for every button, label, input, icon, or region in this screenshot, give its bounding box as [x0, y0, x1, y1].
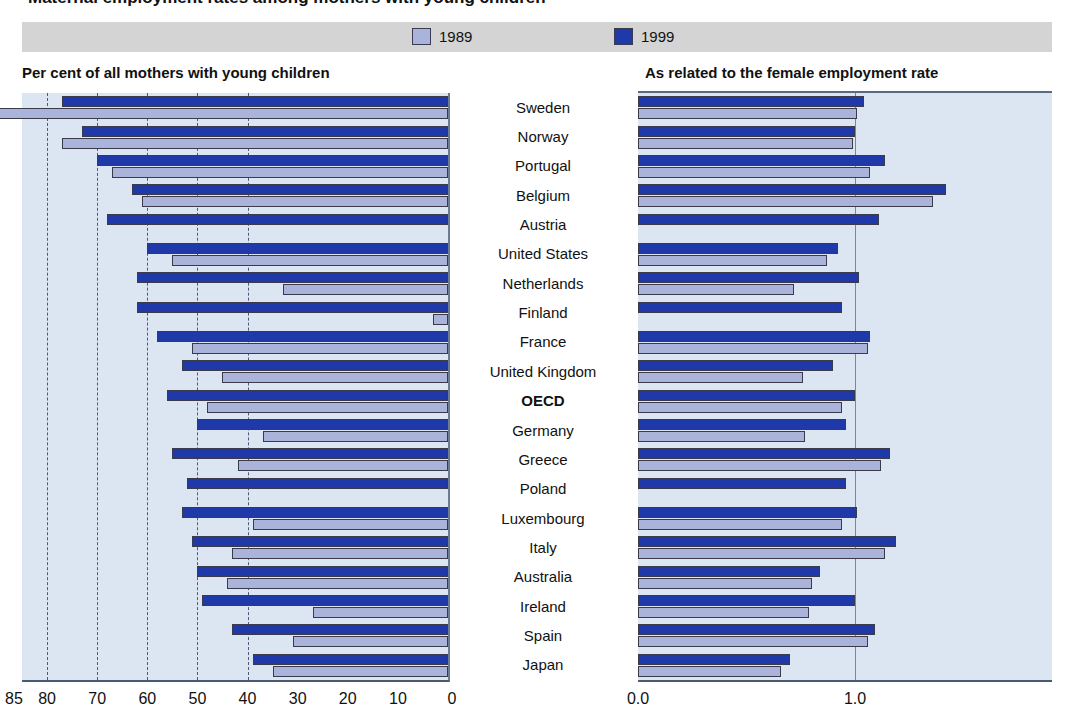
- bar-right-netherlands-1989: [638, 284, 794, 295]
- bar-right-japan-1999: [638, 654, 790, 665]
- bar-left-belgium-1999: [132, 184, 448, 195]
- country-label-belgium: Belgium: [452, 187, 634, 204]
- country-label-portugal: Portugal: [452, 157, 634, 174]
- country-label-united-kingdom: United Kingdom: [452, 363, 634, 380]
- bar-right-belgium-1999: [638, 184, 946, 195]
- bar-left-ireland-1999: [202, 595, 448, 606]
- bar-right-ireland-1989: [638, 607, 809, 618]
- legend-swatch-1989: [412, 28, 431, 45]
- country-label-ireland: Ireland: [452, 598, 634, 615]
- tick-left-20: 20: [339, 690, 357, 708]
- bar-left-italy-1989: [232, 548, 448, 559]
- tick-right-0.0: 0.0: [627, 690, 649, 708]
- country-label-austria: Austria: [452, 216, 634, 233]
- left-panel-heading: Per cent of all mothers with young child…: [22, 64, 330, 81]
- bar-left-portugal-1999: [97, 155, 448, 166]
- bar-right-portugal-1989: [638, 167, 870, 178]
- bar-left-finland-1989: [433, 314, 448, 325]
- bar-right-australia-1999: [638, 566, 820, 577]
- bar-left-belgium-1989: [142, 196, 448, 207]
- country-label-australia: Australia: [452, 568, 634, 585]
- legend-label-1989: 1989: [439, 28, 472, 45]
- country-label-luxembourg: Luxembourg: [452, 510, 634, 527]
- bar-right-france-1989: [638, 343, 868, 354]
- right-chart-top-rule: [638, 91, 1052, 93]
- bar-left-greece-1989: [238, 460, 448, 471]
- bar-right-france-1999: [638, 331, 870, 342]
- bar-left-japan-1989: [273, 666, 448, 677]
- bar-right-luxembourg-1999: [638, 507, 857, 518]
- right-chart-baseline: [638, 680, 1052, 682]
- tick-left-70: 70: [88, 690, 106, 708]
- bar-left-japan-1999: [253, 654, 448, 665]
- bar-left-germany-1999: [197, 419, 448, 430]
- bar-left-norway-1989: [62, 138, 448, 149]
- bar-right-sweden-1989: [638, 108, 857, 119]
- right-chart-plot-area: [638, 93, 1052, 680]
- country-label-united-states: United States: [452, 245, 634, 262]
- country-label-netherlands: Netherlands: [452, 275, 634, 292]
- bar-right-oecd-1989: [638, 402, 842, 413]
- tick-left-85: 85: [5, 690, 23, 708]
- bar-left-united-states-1989: [172, 255, 448, 266]
- bar-left-poland-1999: [187, 478, 448, 489]
- tick-left-60: 60: [138, 690, 156, 708]
- gridline-50: [197, 93, 198, 680]
- chart-legend: 1989 1999: [22, 22, 1052, 52]
- bar-right-poland-1999: [638, 478, 846, 489]
- bar-left-austria-1999: [107, 214, 448, 225]
- tick-left-50: 50: [189, 690, 207, 708]
- bar-right-belgium-1989: [638, 196, 933, 207]
- country-label-france: France: [452, 333, 634, 350]
- bar-right-austria-1999: [638, 214, 879, 225]
- country-label-finland: Finland: [452, 304, 634, 321]
- legend-item-1989: 1989: [412, 28, 472, 45]
- bar-right-netherlands-1999: [638, 272, 859, 283]
- bar-left-united-states-1999: [147, 243, 448, 254]
- left-chart-baseline: [22, 680, 449, 682]
- tick-left-40: 40: [239, 690, 257, 708]
- bar-left-united-kingdom-1999: [182, 360, 448, 371]
- bar-left-italy-1999: [192, 536, 448, 547]
- bar-right-norway-1989: [638, 138, 853, 149]
- figure-title-text: Maternal employment rates among mothers …: [28, 0, 546, 8]
- bar-left-united-kingdom-1989: [222, 372, 448, 383]
- tick-left-10: 10: [389, 690, 407, 708]
- bar-right-finland-1999: [638, 302, 842, 313]
- bar-left-luxembourg-1989: [253, 519, 448, 530]
- country-label-poland: Poland: [452, 480, 634, 497]
- bar-left-spain-1999: [232, 624, 448, 635]
- tick-left-80: 80: [38, 690, 56, 708]
- bar-right-germany-1999: [638, 419, 846, 430]
- bar-right-australia-1989: [638, 578, 812, 589]
- figure-root: Maternal employment rates among mothers …: [0, 0, 1074, 721]
- bar-right-luxembourg-1989: [638, 519, 842, 530]
- bar-right-japan-1989: [638, 666, 781, 677]
- bar-left-france-1999: [157, 331, 448, 342]
- tick-right-1.0: 1.0: [844, 690, 866, 708]
- bar-left-norway-1999: [82, 126, 448, 137]
- country-label-spain: Spain: [452, 627, 634, 644]
- bar-right-italy-1989: [638, 548, 885, 559]
- right-panel-heading: As related to the female employment rate: [645, 64, 938, 81]
- bar-left-sweden-1989: [0, 108, 448, 119]
- legend-swatch-1999: [614, 28, 633, 45]
- bar-right-greece-1989: [638, 460, 881, 471]
- bar-right-italy-1999: [638, 536, 896, 547]
- bar-right-spain-1999: [638, 624, 875, 635]
- bar-left-australia-1989: [227, 578, 448, 589]
- tick-left-30: 30: [289, 690, 307, 708]
- bar-right-united-states-1989: [638, 255, 827, 266]
- bar-right-oecd-1999: [638, 390, 855, 401]
- gridline-60: [147, 93, 148, 680]
- bar-right-ireland-1999: [638, 595, 855, 606]
- gridline-40: [248, 93, 249, 680]
- bar-right-united-kingdom-1989: [638, 372, 803, 383]
- tick-left-0: 0: [448, 690, 457, 708]
- bar-left-luxembourg-1999: [182, 507, 448, 518]
- bar-left-portugal-1989: [112, 167, 448, 178]
- left-chart-plot-area: [22, 93, 449, 680]
- bar-left-france-1989: [192, 343, 448, 354]
- country-label-germany: Germany: [452, 422, 634, 439]
- bar-left-oecd-1989: [207, 402, 448, 413]
